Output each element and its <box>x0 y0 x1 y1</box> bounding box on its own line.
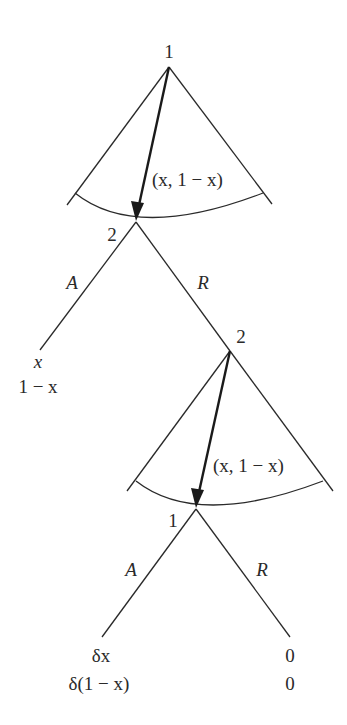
payoff-second-reject-p2: 0 <box>285 673 295 694</box>
node-label-top: 1 <box>164 41 174 62</box>
node-label-fourth: 1 <box>168 510 178 531</box>
action-label-reject-second: R <box>255 559 268 580</box>
fan-top-arc <box>75 193 263 218</box>
arrowhead-top-icon <box>131 201 144 221</box>
branch-accept-second <box>102 509 196 637</box>
offer-label-bottom: (x, 1 − x) <box>213 455 284 477</box>
node-label-second: 2 <box>107 224 117 245</box>
payoff-second-reject-p1: 0 <box>285 645 295 666</box>
branch-accept-first <box>40 222 136 350</box>
game-tree-diagram: 1 (x, 1 − x) 2 A R x 1 − x 2 (x, 1 − x) … <box>0 0 347 725</box>
fan-bottom-arc <box>136 481 323 505</box>
payoff-first-accept-p1: x <box>33 351 43 372</box>
action-label-accept-first: A <box>64 272 78 293</box>
offer-fan-top <box>67 67 272 221</box>
payoff-second-accept-p1: δx <box>92 645 111 666</box>
offer-label-top: (x, 1 − x) <box>152 169 223 191</box>
payoff-second-accept-p2: δ(1 − x) <box>69 673 130 695</box>
branch-reject-first <box>136 222 230 351</box>
action-label-accept-second: A <box>123 559 137 580</box>
branch-reject-second <box>196 509 290 637</box>
node-label-third: 2 <box>236 326 246 347</box>
payoff-first-accept-p2: 1 − x <box>18 376 58 397</box>
offer-fan-bottom <box>127 351 333 508</box>
action-label-reject-first: R <box>196 272 209 293</box>
